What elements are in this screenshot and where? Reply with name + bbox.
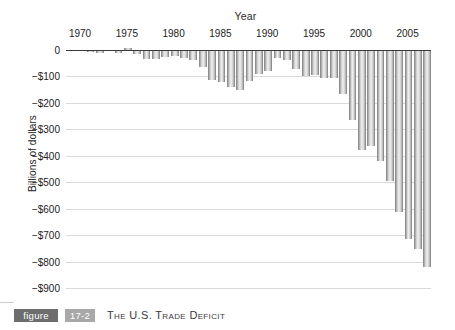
x-axis-tick-label: 1995 (303, 28, 325, 39)
x-axis-tick-label: 1990 (256, 28, 278, 39)
bar (152, 50, 160, 59)
caption-number-chip: 17-2 (65, 309, 95, 322)
bar (292, 50, 300, 69)
bar (405, 50, 413, 239)
bar (377, 50, 385, 161)
gridline (66, 288, 431, 289)
x-axis-tick-label: 1975 (116, 28, 138, 39)
x-axis-tick-label: 1985 (209, 28, 231, 39)
bar (349, 50, 357, 120)
bar (236, 50, 244, 90)
caption-figure-chip: figure (14, 309, 58, 322)
bar (311, 50, 319, 75)
x-axis-tick-label: 1980 (163, 28, 185, 39)
x-axis-title: Year (0, 10, 455, 22)
bar (414, 50, 422, 249)
x-axis-tick-label: 2005 (396, 28, 418, 39)
figure-container: Year 0−$100−$200−$300−$400−$500−$600−$70… (0, 0, 455, 330)
bar (320, 50, 328, 78)
bar (264, 50, 272, 71)
y-axis-title-label: Billions of dollars (27, 115, 38, 192)
bar-series (66, 50, 431, 288)
bar (386, 50, 394, 181)
bar (227, 50, 235, 87)
bar (339, 50, 347, 94)
y-axis-tick-label: −$700 (32, 230, 60, 241)
bar (189, 50, 197, 60)
bar (367, 50, 375, 146)
caption-title: The U.S. Trade Deficit (107, 309, 225, 321)
bar (255, 50, 263, 74)
x-axis-tick-label: 2000 (350, 28, 372, 39)
x-axis-tick-label: 1970 (69, 28, 91, 39)
caption-divider (0, 302, 14, 303)
bar (246, 50, 254, 81)
bar (218, 50, 226, 82)
bar (283, 50, 291, 60)
bar (358, 50, 366, 150)
y-axis-tick-label: −$900 (32, 283, 60, 294)
zero-axis-line (66, 50, 431, 51)
bar (208, 50, 216, 80)
bar (330, 50, 338, 78)
x-axis-tick-labels: 19701975198019851990199520002005 (66, 28, 431, 44)
plot-area (66, 50, 431, 288)
y-axis-tick-label: 0 (54, 45, 60, 56)
bar (143, 50, 151, 59)
y-axis-tick-label: −$800 (32, 256, 60, 267)
bar (199, 50, 207, 67)
bar (423, 50, 431, 267)
y-axis-title: Billions of dollars (27, 84, 38, 224)
bar (302, 50, 310, 76)
y-axis-tick-label: −$100 (32, 71, 60, 82)
bar (395, 50, 403, 212)
x-axis-title-label: Year (234, 10, 256, 22)
figure-caption: figure 17-2 The U.S. Trade Deficit (0, 300, 455, 330)
